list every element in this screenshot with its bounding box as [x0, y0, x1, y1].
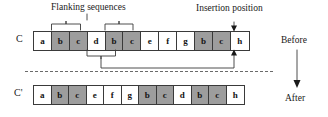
- sequence-cell: b: [192, 86, 210, 104]
- sequence-cell: h: [231, 32, 249, 50]
- sequence-cell: g: [177, 32, 195, 50]
- insertion-position-label: Insertion position: [196, 4, 263, 14]
- after-label: After: [285, 94, 305, 104]
- flanking-sequence-brace-2: [105, 21, 133, 30]
- before-after-arrow-head: [294, 80, 301, 88]
- sequence-after-name: C': [14, 88, 22, 98]
- sequence-cell: b: [139, 86, 157, 104]
- sequence-cell: h: [227, 86, 245, 104]
- sequence-cell: e: [87, 86, 105, 104]
- sequence-cell: a: [34, 32, 52, 50]
- sequence-cell: c: [213, 32, 231, 50]
- flanking-sequence-brace-1: [52, 21, 81, 30]
- sequence-before-name: C: [16, 34, 23, 44]
- sequence-cell: b: [195, 32, 213, 50]
- sequence-cell: c: [209, 86, 227, 104]
- sequence-cell: a: [34, 86, 52, 104]
- sequence-cell: f: [104, 86, 122, 104]
- sequence-cell: c: [123, 32, 141, 50]
- sequence-cell: b: [52, 32, 70, 50]
- sequence-row-after: abcefgbcdbch: [33, 85, 245, 105]
- insertion-diagram: Flanking sequences Insertion position Be…: [0, 0, 328, 117]
- sequence-cell: d: [174, 86, 192, 104]
- sequence-cell: g: [122, 86, 140, 104]
- moved-segment-brace: [87, 50, 116, 59]
- section-divider: [25, 71, 273, 72]
- sequence-cell: f: [159, 32, 177, 50]
- insertion-connector: [101, 52, 234, 68]
- sequence-cell: d: [88, 32, 106, 50]
- sequence-cell: c: [69, 86, 87, 104]
- sequence-cell: c: [157, 86, 175, 104]
- sequence-row-before: abcdbcefgbch: [33, 31, 250, 51]
- sequence-cell: b: [52, 86, 70, 104]
- sequence-cell: e: [141, 32, 159, 50]
- sequence-cell: c: [70, 32, 88, 50]
- flanking-sequences-label: Flanking sequences: [51, 3, 126, 13]
- before-label: Before: [281, 36, 307, 46]
- sequence-cell: b: [106, 32, 124, 50]
